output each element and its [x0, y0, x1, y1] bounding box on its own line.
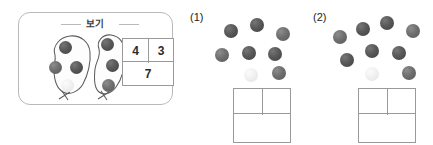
question-2-bond-part-right[interactable] [387, 89, 415, 115]
example-box: 보기 4 3 7 [18, 12, 173, 105]
question-2-bond-whole[interactable] [359, 113, 415, 142]
question-2-dot-2 [356, 22, 370, 36]
example-dot-right-1 [101, 38, 114, 51]
question-1-dot-7 [244, 68, 258, 82]
example-label: 보기 [81, 18, 110, 29]
question-2-dot-7 [340, 53, 354, 67]
example-dot-right-2 [106, 59, 119, 72]
question-1-dot-1 [224, 24, 238, 38]
example-bond-part-left: 4 [123, 39, 148, 63]
question-1-dot-2 [250, 18, 264, 32]
question-2-dot-1 [333, 30, 347, 44]
question-1-dot-8 [272, 66, 286, 80]
question-1-label: (1) [190, 11, 203, 23]
question-1-bond-whole[interactable] [234, 113, 290, 142]
question-2-dot-8 [365, 67, 379, 81]
question-1-number-bond-table[interactable] [233, 88, 291, 143]
example-label-rule-right [119, 24, 139, 25]
example-number-bond-table: 4 3 7 [122, 38, 174, 86]
question-1-bond-part-left[interactable] [234, 89, 262, 115]
example-bond-part-right: 3 [148, 39, 173, 63]
example-label-rule-left [61, 24, 81, 25]
question-1-dot-5 [242, 46, 256, 60]
example-bond-whole: 7 [123, 61, 173, 85]
question-2-dot-3 [380, 16, 394, 30]
question-2-dot-4 [406, 24, 420, 38]
question-1-dot-3 [276, 27, 290, 41]
question-1-dot-6 [268, 47, 282, 61]
question-1-dot-4 [215, 48, 229, 62]
example-dot-left-1 [59, 41, 72, 54]
question-1-bond-top-row [234, 89, 290, 115]
example-dot-left-2 [49, 61, 62, 74]
example-dot-right-3 [102, 79, 115, 92]
question-2-bond-part-left[interactable] [359, 89, 387, 115]
question-2-bond-top-row [359, 89, 415, 115]
example-dot-left-3 [70, 61, 83, 74]
question-2-number-bond-table[interactable] [358, 88, 416, 143]
example-bond-top-row: 4 3 [123, 39, 173, 63]
example-dot-left-4 [61, 79, 74, 92]
question-2-label: (2) [313, 11, 326, 23]
question-2-dot-5 [365, 44, 379, 58]
question-2-dot-group [330, 14, 425, 86]
question-2-dot-6 [392, 46, 406, 60]
question-2-dot-9 [402, 66, 416, 80]
question-1-dot-group [210, 14, 300, 86]
question-1-bond-part-right[interactable] [262, 89, 290, 115]
